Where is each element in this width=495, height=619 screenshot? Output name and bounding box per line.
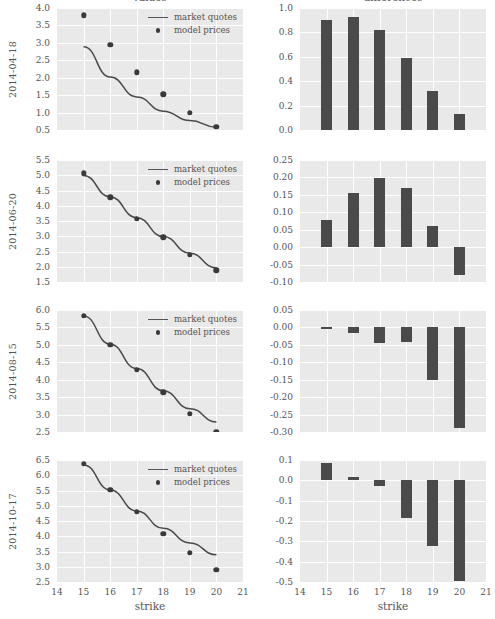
x-axis-tick-label: 20 <box>454 587 465 597</box>
plot-area <box>300 460 486 582</box>
difference-bar <box>427 480 438 545</box>
y-axis-tick-label: -0.4 <box>276 557 293 567</box>
grid-line-vertical <box>406 460 407 582</box>
y-axis-tick-label: 0.0 <box>279 475 293 485</box>
difference-bar <box>454 480 465 581</box>
difference-bar <box>348 477 359 480</box>
x-axis-tick-label: 17 <box>374 587 385 597</box>
grid-line-vertical <box>380 460 381 582</box>
x-axis-label: strike <box>300 600 486 612</box>
x-axis-tick-label: 16 <box>347 587 358 597</box>
y-axis-tick-label: -0.1 <box>276 496 293 506</box>
x-axis-tick-label: 21 <box>480 587 491 597</box>
differences-subplot-4: -0.5-0.4-0.3-0.2-0.10.00.114151617181920… <box>0 0 495 619</box>
difference-bar <box>321 463 332 480</box>
x-axis-tick-label: 18 <box>401 587 412 597</box>
figure-canvas: valuesmarket quotesmodel prices0.51.01.5… <box>0 0 495 619</box>
x-axis-tick-label: 19 <box>427 587 438 597</box>
y-axis-tick-label: 0.1 <box>279 455 293 465</box>
x-axis-tick-label: 14 <box>294 587 305 597</box>
difference-bar <box>401 480 412 517</box>
difference-bar <box>374 480 385 486</box>
y-axis-tick-label: -0.3 <box>276 536 293 546</box>
grid-line-horizontal <box>300 460 486 461</box>
x-axis-tick-label: 15 <box>321 587 332 597</box>
y-axis-tick-label: -0.5 <box>276 577 293 587</box>
y-axis-tick-label: -0.2 <box>276 516 293 526</box>
